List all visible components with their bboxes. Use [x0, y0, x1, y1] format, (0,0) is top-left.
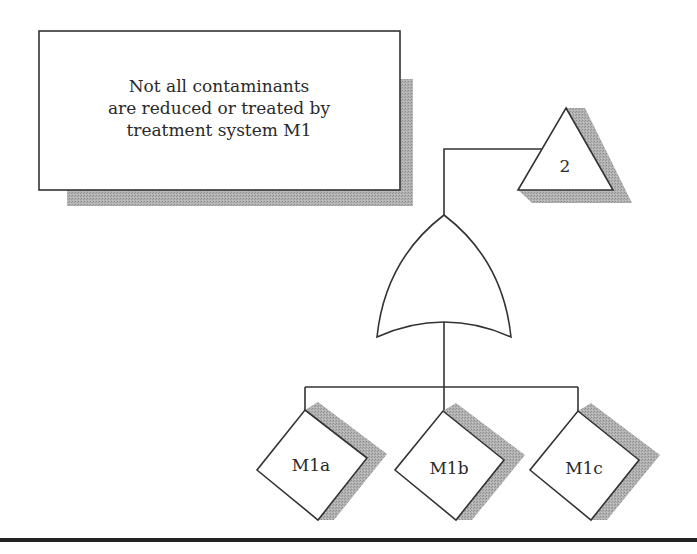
basic-event-label: M1b: [429, 458, 468, 478]
connector-gate-to-events: [305, 322, 578, 411]
top-event-line-3: treatment system M1: [126, 120, 311, 140]
transfer-triangle: 2: [518, 108, 632, 203]
top-event-box: Not all contaminants are reduced or trea…: [39, 31, 413, 206]
top-event-line-2: are reduced or treated by: [108, 98, 331, 118]
basic-event-m1b: M1b: [395, 403, 525, 520]
basic-event-label: M1a: [292, 455, 330, 475]
bottom-rule: [0, 538, 697, 542]
transfer-label: 2: [560, 156, 571, 176]
fault-tree-diagram: Not all contaminants are reduced or trea…: [0, 0, 697, 554]
or-gate-icon: [377, 215, 511, 337]
top-event-line-1: Not all contaminants: [129, 76, 310, 96]
basic-event-m1a: M1a: [257, 402, 387, 520]
transfer-triangle-shadow-base: [518, 190, 632, 203]
basic-event-label: M1c: [565, 458, 603, 478]
basic-event-m1c: M1c: [530, 403, 660, 520]
